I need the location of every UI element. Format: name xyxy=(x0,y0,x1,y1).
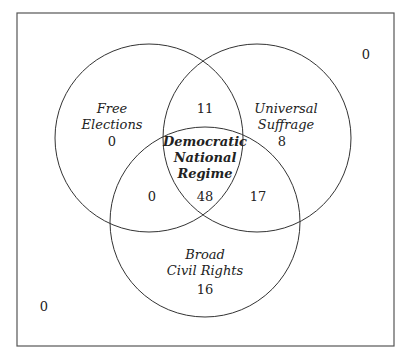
count-fe-and-us: 11 xyxy=(197,101,214,116)
count-all-three: 48 xyxy=(197,189,214,204)
count-us-and-bcr: 17 xyxy=(250,189,267,204)
label-line: Suffrage xyxy=(254,117,317,133)
label-line: Democratic xyxy=(163,134,247,150)
label-line: Universal xyxy=(254,101,317,117)
count-universal-suffrage-only: 8 xyxy=(278,134,286,149)
democratic-national-regime-label: Democratic National Regime xyxy=(163,134,247,182)
count-outside-top-right: 0 xyxy=(362,47,370,62)
label-line: Free xyxy=(82,101,143,117)
label-line: Elections xyxy=(82,117,143,133)
label-line: National xyxy=(163,150,247,166)
free-elections-label: Free Elections xyxy=(82,101,143,133)
count-free-elections-only: 0 xyxy=(108,134,116,149)
label-line: Broad xyxy=(167,247,243,263)
label-line: Regime xyxy=(163,166,247,182)
label-line: Civil Rights xyxy=(167,263,243,279)
count-fe-and-bcr: 0 xyxy=(148,189,156,204)
universal-suffrage-label: Universal Suffrage xyxy=(254,101,317,133)
broad-civil-rights-label: Broad Civil Rights xyxy=(167,247,243,279)
count-broad-civil-rights-only: 16 xyxy=(197,282,214,297)
count-outside-bottom-left: 0 xyxy=(40,299,48,314)
